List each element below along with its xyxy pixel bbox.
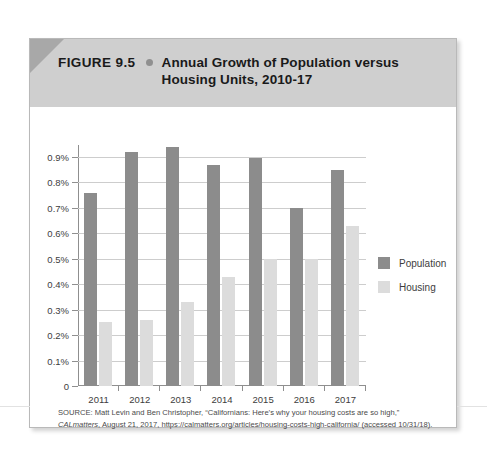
y-axis-tick-label: 0.6% <box>47 228 69 239</box>
x-axis-tick-label: 2012 <box>129 394 150 405</box>
x-axis-tick-label: 2017 <box>335 394 356 405</box>
bar-housing-2014 <box>222 277 235 386</box>
x-axis-tick <box>159 386 160 391</box>
figure-number: FIGURE 9.5 <box>58 54 136 71</box>
bar-housing-2011 <box>99 322 112 386</box>
figure-header-band: FIGURE 9.5 Annual Growth of Population v… <box>30 39 456 107</box>
y-axis-tick-label: 0.1% <box>47 355 69 366</box>
y-axis-tick-label: 0.2% <box>47 330 69 341</box>
legend-label: Population <box>399 258 446 269</box>
bar-housing-2015 <box>264 259 277 386</box>
bar-housing-2016 <box>305 259 318 386</box>
source-publication: CALmatters <box>58 420 98 429</box>
x-axis-tick-label: 2013 <box>170 394 191 405</box>
legend-swatch-housing <box>378 281 390 293</box>
y-axis-tick <box>72 386 78 387</box>
y-axis-tick-label: 0.3% <box>47 304 69 315</box>
legend-item-population: Population <box>378 257 446 269</box>
bar-group: 2015 <box>243 157 284 386</box>
bar-housing-2012 <box>140 320 153 386</box>
bar-group: 2016 <box>284 157 325 386</box>
bar-group: 2011 <box>78 157 119 386</box>
bar-group: 2013 <box>160 157 201 386</box>
page-rule-right <box>457 406 487 407</box>
source-prefix: SOURCE: Matt Levin and Ben Christopher, … <box>58 408 399 417</box>
x-axis-tick-label: 2015 <box>253 394 274 405</box>
bar-population-2016 <box>290 208 303 386</box>
x-axis-tick-label: 2011 <box>88 394 108 405</box>
legend-swatch-population <box>378 257 390 269</box>
source-note: SOURCE: Matt Levin and Ben Christopher, … <box>58 407 436 430</box>
x-axis-tick <box>118 386 119 391</box>
bar-housing-2013 <box>181 302 194 386</box>
y-axis-tick-label: 0.5% <box>47 253 69 264</box>
bar-population-2013 <box>166 147 179 386</box>
y-axis-tick-label: 0.7% <box>47 202 69 213</box>
y-axis-tick-label: 0.8% <box>47 177 69 188</box>
bar-group: 2012 <box>119 157 160 386</box>
figure-title-block: FIGURE 9.5 Annual Growth of Population v… <box>58 54 438 88</box>
x-axis-tick <box>242 386 243 391</box>
legend-item-housing: Housing <box>378 281 446 293</box>
bar-population-2017 <box>331 170 344 386</box>
y-axis-tick-label: 0.4% <box>47 279 69 290</box>
chart-legend: PopulationHousing <box>378 257 446 305</box>
bar-population-2012 <box>125 152 138 386</box>
source-suffix: , August 21, 2017, https://calmatters.or… <box>98 420 432 429</box>
x-axis-tick <box>283 386 284 391</box>
bar-housing-2017 <box>346 226 359 386</box>
page-rule-left <box>0 406 30 407</box>
legend-label: Housing <box>399 282 436 293</box>
bars-layer: 2011201220132014201520162017 <box>78 157 366 386</box>
plot-axes: 0.9%0.8%0.7%0.6%0.5%0.4%0.3%0.2%0.1%0 20… <box>78 157 366 386</box>
y-axis-tick-label: 0 <box>64 381 69 392</box>
figure-container: FIGURE 9.5 Annual Growth of Population v… <box>29 38 457 428</box>
x-axis-tick-label: 2014 <box>211 394 232 405</box>
chart-area: 0.9%0.8%0.7%0.6%0.5%0.4%0.3%0.2%0.1%0 20… <box>30 107 456 427</box>
x-axis-tick <box>365 386 366 391</box>
bar-group: 2014 <box>201 157 242 386</box>
bullet-dot-icon <box>146 59 153 66</box>
bar-population-2011 <box>84 193 97 386</box>
x-axis-tick <box>324 386 325 391</box>
bar-population-2014 <box>207 165 220 386</box>
bar-group: 2017 <box>325 157 366 386</box>
page-title: Annual Growth of Population versus Housi… <box>162 54 438 88</box>
x-axis-tick <box>200 386 201 391</box>
bar-population-2015 <box>249 158 262 386</box>
y-axis-tick-label: 0.9% <box>47 152 69 163</box>
x-axis-tick-label: 2016 <box>294 394 315 405</box>
